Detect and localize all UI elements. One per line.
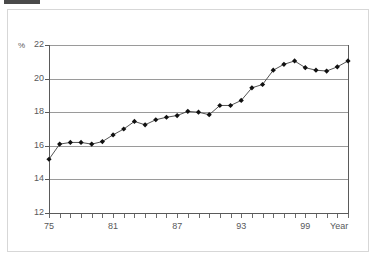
x-tick-label-1999: 99 <box>293 221 317 231</box>
y-tick-label-14: 14 <box>24 174 44 183</box>
x-tick-mark-1990 <box>209 214 210 218</box>
y-tick-label-18: 18 <box>24 107 44 116</box>
x-tick-mark-1997 <box>284 214 285 218</box>
x-tick-mark-1981 <box>113 214 114 218</box>
x-tick-mark-1983 <box>134 214 135 218</box>
x-tick-mark-1989 <box>199 214 200 218</box>
plot-right-border <box>348 45 349 214</box>
grid-line-14 <box>49 179 348 180</box>
x-tick-mark-1986 <box>166 214 167 218</box>
y-tick-mark-18 <box>45 112 49 113</box>
x-tick-mark-1977 <box>70 214 71 218</box>
x-tick-mark-2002 <box>337 214 338 218</box>
grid-line-18 <box>49 112 348 113</box>
cropped-header-strip <box>4 0 40 4</box>
x-tick-mark-1978 <box>81 214 82 218</box>
x-axis-title: Year <box>330 221 348 231</box>
x-tick-label-1981: 81 <box>101 221 125 231</box>
x-tick-mark-1984 <box>145 214 146 218</box>
y-tick-label-12: 12 <box>24 208 44 217</box>
x-tick-mark-1995 <box>263 214 264 218</box>
x-tick-mark-2001 <box>327 214 328 218</box>
y-axis-line <box>49 45 50 214</box>
grid-line-16 <box>49 146 348 147</box>
grid-line-22 <box>49 45 348 46</box>
x-tick-mark-1994 <box>252 214 253 218</box>
y-tick-mark-14 <box>45 179 49 180</box>
x-tick-mark-1975 <box>49 214 50 218</box>
x-tick-mark-1993 <box>241 214 242 218</box>
y-tick-mark-20 <box>45 79 49 80</box>
x-tick-mark-2003 <box>348 214 349 218</box>
x-tick-mark-1992 <box>231 214 232 218</box>
x-tick-mark-1976 <box>60 214 61 218</box>
y-tick-label-22: 22 <box>24 40 44 49</box>
x-tick-mark-1979 <box>92 214 93 218</box>
x-tick-mark-1980 <box>102 214 103 218</box>
x-tick-mark-1987 <box>177 214 178 218</box>
x-tick-label-1975: 75 <box>37 221 61 231</box>
plot-area <box>49 45 348 213</box>
x-tick-mark-1988 <box>188 214 189 218</box>
x-tick-mark-2000 <box>316 214 317 218</box>
x-tick-mark-1998 <box>295 214 296 218</box>
chart-screenshot: % 121416182022 7581879399 Year <box>0 0 378 261</box>
x-tick-mark-1985 <box>156 214 157 218</box>
x-tick-mark-1991 <box>220 214 221 218</box>
y-tick-mark-22 <box>45 45 49 46</box>
x-tick-label-1993: 93 <box>229 221 253 231</box>
x-tick-mark-1999 <box>305 214 306 218</box>
x-tick-label-1987: 87 <box>165 221 189 231</box>
x-tick-mark-1996 <box>273 214 274 218</box>
grid-line-20 <box>49 79 348 80</box>
y-tick-mark-16 <box>45 146 49 147</box>
y-tick-label-20: 20 <box>24 74 44 83</box>
x-tick-mark-1982 <box>124 214 125 218</box>
y-tick-label-16: 16 <box>24 141 44 150</box>
